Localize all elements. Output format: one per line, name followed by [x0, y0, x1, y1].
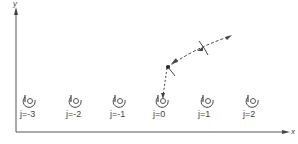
atom-symbol-icon	[23, 95, 35, 107]
path-arrow-icon	[225, 35, 232, 40]
force-arrow	[168, 67, 175, 76]
atom-symbol-icon	[201, 95, 213, 107]
down-arrow-icon	[161, 93, 165, 99]
site-label: j=0	[153, 109, 165, 119]
site-label: j=-2	[66, 109, 81, 119]
lattice-sites	[23, 95, 258, 107]
path-arrow-icon	[171, 58, 178, 64]
lattice-diagram	[0, 0, 298, 144]
atom-symbol-icon	[69, 95, 81, 107]
x-axis-arrow-icon	[282, 130, 290, 134]
site-label: j=-1	[110, 109, 125, 119]
particle-trajectory	[161, 35, 232, 99]
x-axis-label: x	[291, 127, 295, 136]
y-axis-label: y	[13, 0, 17, 8]
atom-symbol-icon	[113, 95, 125, 107]
atom-symbol-icon	[156, 95, 168, 107]
site-label: j=2	[243, 109, 255, 119]
y-axis-arrow-icon	[14, 7, 18, 15]
atom-symbol-icon	[246, 95, 258, 107]
site-label: j=1	[198, 109, 210, 119]
site-label: j=-3	[20, 109, 35, 119]
